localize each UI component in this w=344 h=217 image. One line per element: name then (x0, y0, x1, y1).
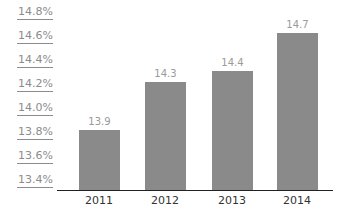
bar-2013 (212, 71, 253, 190)
bar-value-label: 14.4 (212, 57, 253, 68)
x-tick-label: 2013 (202, 194, 262, 207)
y-tick-label: 14.6% (17, 29, 53, 44)
y-tick-label: 13.8% (17, 125, 53, 140)
x-tick-label: 2011 (69, 194, 129, 207)
bar-value-label: 14.3 (145, 68, 186, 79)
x-tick-label: 2014 (267, 194, 327, 207)
bar-value-label: 14.7 (277, 19, 318, 30)
bar-2014 (277, 33, 318, 190)
y-tick-label: 13.4% (17, 173, 53, 188)
y-tick-label: 14.2% (17, 77, 53, 92)
y-tick-label: 13.6% (17, 149, 53, 164)
y-tick-label: 14.8% (17, 5, 53, 20)
bar-value-label: 13.9 (79, 116, 120, 127)
x-axis-line (57, 190, 333, 191)
y-tick-label: 14.4% (17, 53, 53, 68)
y-tick-label: 14.0% (17, 101, 53, 116)
bar-2011 (79, 130, 120, 190)
bar-2012 (145, 82, 186, 190)
x-tick-label: 2012 (135, 194, 195, 207)
